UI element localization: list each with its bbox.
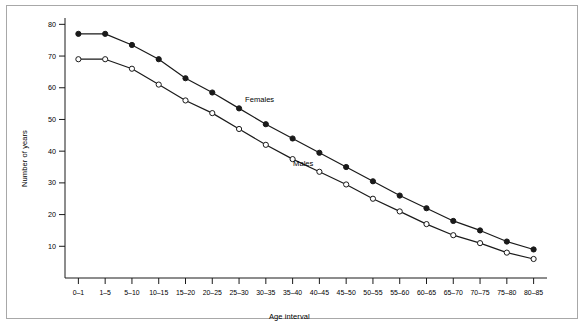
data-point-males <box>76 57 81 62</box>
y-tick-label: 20 <box>48 210 56 219</box>
data-point-males <box>477 241 482 246</box>
data-point-males <box>344 182 349 187</box>
x-tick-label: 65–70 <box>444 289 463 296</box>
data-point-females <box>424 206 429 211</box>
x-tick-label: 50–55 <box>363 289 382 296</box>
data-point-males <box>183 98 188 103</box>
data-point-females <box>451 218 456 223</box>
x-tick-label: 30–35 <box>256 289 275 296</box>
data-point-females <box>477 228 482 233</box>
data-point-females <box>183 76 188 81</box>
x-tick-label: 10–15 <box>149 289 168 296</box>
x-tick-label: 5–10 <box>124 289 139 296</box>
data-point-males <box>424 222 429 227</box>
data-series-layer <box>76 31 536 261</box>
x-tick-label: 60–65 <box>417 289 436 296</box>
x-axis-title: Age interval <box>269 312 310 321</box>
data-point-males <box>263 142 268 147</box>
x-tick-label: 55–60 <box>390 289 409 296</box>
x-tick-label: 45–50 <box>337 289 356 296</box>
x-tick-label: 70–75 <box>470 289 489 296</box>
y-tick-label: 50 <box>48 115 56 124</box>
y-axis-ticks: 1020304050607080 <box>48 20 65 251</box>
y-tick-label: 40 <box>48 147 56 156</box>
x-tick-label: 35–40 <box>283 289 302 296</box>
data-point-females <box>531 247 536 252</box>
data-point-females <box>290 136 295 141</box>
data-point-females <box>370 179 375 184</box>
x-tick-label: 0–1 <box>73 289 85 296</box>
y-tick-label: 60 <box>48 83 56 92</box>
chart-figure: 1020304050607080 0–11–55–1010–1515–2020–… <box>0 0 584 326</box>
x-tick-label: 75–80 <box>497 289 516 296</box>
data-point-males <box>156 82 161 87</box>
data-point-males <box>317 169 322 174</box>
x-tick-label: 20–25 <box>203 289 222 296</box>
y-tick-label: 30 <box>48 178 56 187</box>
x-tick-label: 1–5 <box>99 289 111 296</box>
data-point-females <box>129 42 134 47</box>
x-axis-ticks: 0–11–55–1010–1515–2020–2525–3030–3535–40… <box>73 278 544 296</box>
data-point-males <box>397 209 402 214</box>
data-point-males <box>210 111 215 116</box>
chart-frame: 1020304050607080 0–11–55–1010–1515–2020–… <box>6 5 578 319</box>
life-expectancy-line-chart: 1020304050607080 0–11–55–1010–1515–2020–… <box>7 6 579 320</box>
y-tick-label: 70 <box>48 52 56 61</box>
data-point-males <box>370 196 375 201</box>
y-axis-title: Number of years <box>20 114 29 204</box>
data-point-males <box>504 250 509 255</box>
data-point-males <box>129 66 134 71</box>
series-line-females <box>78 34 533 250</box>
data-point-females <box>236 106 241 111</box>
data-point-females <box>263 122 268 127</box>
data-point-females <box>210 90 215 95</box>
data-point-males <box>103 57 108 62</box>
data-point-females <box>344 164 349 169</box>
data-point-females <box>76 31 81 36</box>
data-point-females <box>504 239 509 244</box>
data-point-females <box>103 31 108 36</box>
y-tick-label: 10 <box>48 242 56 251</box>
data-point-females <box>397 193 402 198</box>
y-tick-label: 80 <box>48 20 56 29</box>
series-label-females: Females <box>245 95 274 104</box>
series-label-males: Males <box>293 159 313 168</box>
data-point-males <box>236 126 241 131</box>
x-tick-label: 15–20 <box>176 289 195 296</box>
data-point-females <box>317 150 322 155</box>
x-tick-label: 40–45 <box>310 289 329 296</box>
x-tick-label: 25–30 <box>229 289 248 296</box>
data-point-females <box>156 57 161 62</box>
x-tick-label: 80–85 <box>524 289 543 296</box>
data-point-males <box>531 256 536 261</box>
data-point-males <box>451 233 456 238</box>
